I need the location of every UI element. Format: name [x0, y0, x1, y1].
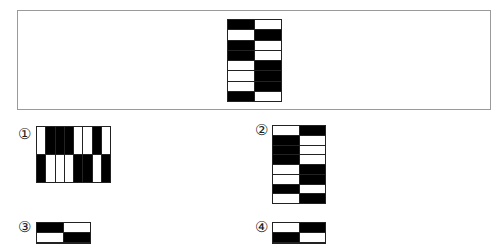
option-4-label[interactable]: ④	[255, 220, 268, 235]
option-4-grid[interactable]	[272, 222, 326, 244]
pattern-cell	[56, 127, 64, 154]
pattern-cell	[300, 146, 326, 155]
pattern-cell	[273, 155, 299, 164]
pattern-cell	[37, 233, 63, 242]
pattern-cell	[273, 223, 299, 232]
pattern-cell	[228, 61, 254, 70]
pattern-cell	[228, 92, 254, 101]
pattern-cell	[37, 127, 45, 154]
pattern-cell	[300, 185, 326, 194]
pattern-cell	[102, 155, 110, 182]
pattern-cell	[228, 71, 254, 80]
pattern-cell	[93, 155, 101, 182]
pattern-cell	[74, 155, 82, 182]
pattern-cell	[273, 233, 299, 242]
pattern-cell	[273, 185, 299, 194]
pattern-cell	[255, 71, 281, 80]
pattern-cell	[102, 127, 110, 154]
option-3-grid[interactable]	[36, 222, 91, 244]
pattern-cell	[300, 175, 326, 184]
pattern-cell	[273, 126, 299, 135]
pattern-cell	[273, 194, 299, 203]
pattern-cell	[255, 41, 281, 50]
pattern-cell	[83, 127, 91, 154]
pattern-cell	[93, 127, 101, 154]
pattern-cell	[64, 223, 90, 232]
pattern-cell	[83, 155, 91, 182]
pattern-cell	[255, 82, 281, 91]
pattern-cell	[64, 233, 90, 242]
pattern-cell	[300, 136, 326, 145]
option-3-label[interactable]: ③	[18, 220, 31, 235]
pattern-cell	[300, 165, 326, 174]
pattern-cell	[37, 223, 63, 232]
pattern-cell	[56, 155, 64, 182]
pattern-cell	[300, 233, 326, 242]
pattern-cell	[228, 41, 254, 50]
option-1-label[interactable]: ①	[18, 127, 31, 142]
pattern-cell	[255, 20, 281, 29]
pattern-cell	[273, 165, 299, 174]
pattern-cell	[46, 127, 54, 154]
pattern-cell	[255, 51, 281, 60]
pattern-cell	[273, 136, 299, 145]
pattern-cell	[300, 126, 326, 135]
pattern-cell	[300, 194, 326, 203]
option-2-grid[interactable]	[272, 125, 326, 204]
pattern-cell	[273, 175, 299, 184]
question-pattern-grid	[227, 19, 282, 102]
pattern-cell	[255, 30, 281, 39]
pattern-cell	[228, 82, 254, 91]
option-1-grid[interactable]	[36, 126, 111, 183]
pattern-cell	[300, 223, 326, 232]
pattern-cell	[273, 146, 299, 155]
pattern-cell	[46, 155, 54, 182]
pattern-cell	[228, 30, 254, 39]
option-2-label[interactable]: ②	[255, 123, 268, 138]
pattern-cell	[65, 155, 73, 182]
pattern-cell	[65, 127, 73, 154]
pattern-cell	[300, 155, 326, 164]
pattern-cell	[255, 61, 281, 70]
pattern-cell	[37, 155, 45, 182]
pattern-cell	[255, 92, 281, 101]
pattern-cell	[228, 51, 254, 60]
pattern-cell	[228, 20, 254, 29]
pattern-cell	[74, 127, 82, 154]
